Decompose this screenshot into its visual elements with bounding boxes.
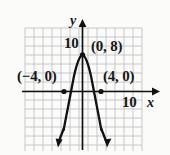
y-axis-label: y xyxy=(70,14,76,28)
x-axis-tick-label-10: 10 xyxy=(122,95,137,110)
y-axis xyxy=(79,19,87,150)
vertex-point-label: (0, 8) xyxy=(91,39,122,54)
point-vertex xyxy=(80,52,85,57)
y-axis-tick-label-10: 10 xyxy=(64,36,79,51)
positive-root-point-label: (4, 0) xyxy=(103,69,134,84)
point-root-positive xyxy=(98,89,103,94)
point-root-negative xyxy=(61,89,66,94)
negative-root-point-label: (−4, 0) xyxy=(17,69,57,84)
parabola-figure: y x 10 10 (0, 8) (−4, 0) (4, 0) xyxy=(0,0,170,155)
grid-lines xyxy=(25,28,142,151)
x-axis-label: x xyxy=(147,96,154,110)
